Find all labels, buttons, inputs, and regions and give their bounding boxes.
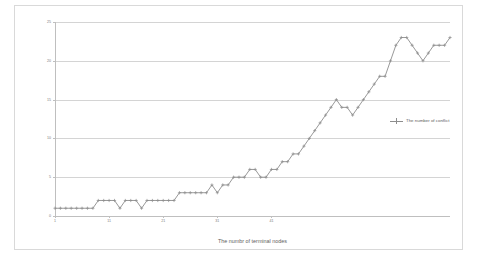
x-axis-line <box>55 216 450 217</box>
data-point-cross-marker <box>194 191 197 194</box>
x-axis-tick-label: 41 <box>269 219 273 223</box>
x-axis-tick-label: 1 <box>54 219 56 223</box>
data-point-cross-marker <box>383 75 386 78</box>
data-point-cross-marker <box>59 207 62 210</box>
y-axis-tick-label: 20 <box>47 59 51 63</box>
legend-entry-label: The number of conflict <box>406 118 449 124</box>
x-axis-tick-label: 21 <box>161 219 165 223</box>
data-point-cross-marker <box>151 199 154 202</box>
y-axis-tick-label: 25 <box>47 20 51 24</box>
data-point-cross-marker <box>86 207 89 210</box>
data-point-cross-marker <box>80 207 83 210</box>
data-point-cross-marker <box>162 199 165 202</box>
data-point-cross-marker <box>75 207 78 210</box>
data-point-cross-marker <box>156 199 159 202</box>
data-point-cross-marker <box>237 176 240 179</box>
y-axis-tick-label: 0 <box>49 214 51 218</box>
data-point-cross-marker <box>53 207 56 210</box>
data-point-cross-marker <box>189 191 192 194</box>
data-point-cross-marker <box>129 199 132 202</box>
data-point-cross-marker <box>108 199 111 202</box>
data-point-cross-marker <box>199 191 202 194</box>
x-axis-title: The numbr of terminal nodes <box>55 238 450 245</box>
chart-legend: The number of conflict <box>390 118 449 124</box>
x-axis-tick-label: 11 <box>107 219 111 223</box>
y-axis-tick-label: 5 <box>49 175 51 179</box>
data-point-cross-marker <box>102 199 105 202</box>
y-axis-tick-label: 10 <box>47 136 51 140</box>
data-point-cross-marker <box>70 207 73 210</box>
x-axis-tick-label: 31 <box>215 219 219 223</box>
data-point-cross-marker <box>167 199 170 202</box>
cross-marker-icon <box>390 118 403 124</box>
y-axis-tick-label: 15 <box>47 98 51 102</box>
data-point-cross-marker <box>64 207 67 210</box>
data-point-cross-marker <box>438 44 441 47</box>
chart-frame: 0510152025 111213141 The number of confl… <box>14 5 463 250</box>
data-point-cross-marker <box>183 191 186 194</box>
data-point-cross-marker <box>389 59 392 62</box>
